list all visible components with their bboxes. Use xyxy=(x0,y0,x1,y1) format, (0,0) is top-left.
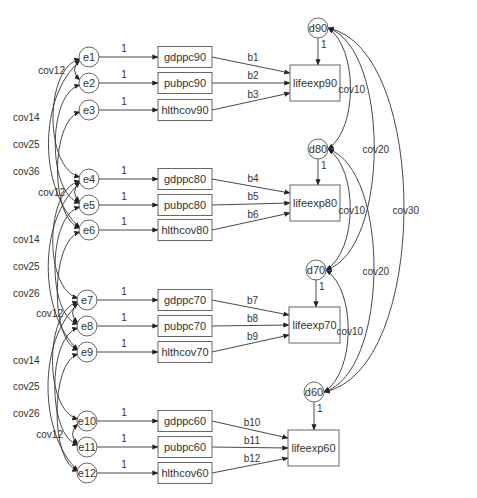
predictor-label: pubpc70 xyxy=(164,320,206,332)
regression-path-label: b9 xyxy=(247,331,259,342)
covariance-arc-label: cov26 xyxy=(13,288,40,299)
covariance-arc-label: cov25 xyxy=(13,261,40,272)
path-diagram: lifeexp90d901e11gdppc90b1e21pubpc90b2e31… xyxy=(0,0,477,498)
disturbance-covariance-label: cov20 xyxy=(363,266,390,277)
covariance-arc-label: cov26 xyxy=(13,408,40,419)
disturbance-path-label: 1 xyxy=(317,403,323,414)
regression-path-label: b10 xyxy=(244,417,261,428)
error-label: e6 xyxy=(83,224,95,236)
predictor-label: gdppc60 xyxy=(164,415,206,427)
covariance-cov12-label: cov12 xyxy=(38,187,65,198)
regression-path-label: b12 xyxy=(244,453,261,464)
regression-path-label: b6 xyxy=(247,209,259,220)
labels-layer: lifeexp90d901e11gdppc90b1e21pubpc90b2e31… xyxy=(13,22,420,479)
predictor-label: hlthcov90 xyxy=(161,104,208,116)
disturbance-path-label: 1 xyxy=(321,160,327,171)
error-label: e7 xyxy=(81,294,93,306)
error-path-label: 1 xyxy=(121,96,127,107)
predictor-label: hlthcov60 xyxy=(161,467,208,479)
error-path-label: 1 xyxy=(121,216,127,227)
error-label: e11 xyxy=(78,441,96,453)
disturbance-covariance-label: cov20 xyxy=(363,144,390,155)
outcome-label: lifeexp60 xyxy=(291,442,335,454)
edges-layer xyxy=(48,28,404,473)
disturbance-label: d90 xyxy=(309,22,327,34)
regression-path-label: b3 xyxy=(247,89,259,100)
predictor-label: hlthcov70 xyxy=(161,346,208,358)
error-path-label: 1 xyxy=(121,286,127,297)
covariance-cov12 xyxy=(73,424,79,444)
error-label: e9 xyxy=(81,346,93,358)
error-path-label: 1 xyxy=(121,312,127,323)
error-path-label: 1 xyxy=(121,459,127,470)
error-label: e5 xyxy=(83,199,95,211)
error-label: e10 xyxy=(78,415,96,427)
disturbance-covariance-label: cov10 xyxy=(337,326,364,337)
error-label: e2 xyxy=(83,77,95,89)
disturbance-label: d80 xyxy=(309,143,327,155)
disturbance-label: d60 xyxy=(305,386,323,398)
regression-path-label: b8 xyxy=(247,313,259,324)
error-path-label: 1 xyxy=(121,338,127,349)
disturbance-path-label: 1 xyxy=(321,39,327,50)
covariance-arc-label: cov25 xyxy=(13,381,40,392)
predictor-label: pubpc60 xyxy=(164,441,206,453)
error-path-label: 1 xyxy=(121,43,127,54)
predictor-label: gdppc70 xyxy=(164,294,206,306)
predictor-label: hlthcov80 xyxy=(161,224,208,236)
disturbance-covariance-label: cov30 xyxy=(393,205,420,216)
predictor-label: pubpc80 xyxy=(164,199,206,211)
error-path-label: 1 xyxy=(121,191,127,202)
covariance-arc-label: cov14 xyxy=(13,234,40,245)
outcome-label: lifeexp90 xyxy=(293,77,337,89)
regression-path xyxy=(212,325,289,326)
predictor-label: gdppc90 xyxy=(164,51,206,63)
covariance-arc xyxy=(57,232,80,350)
covariance-arc-label: cov36 xyxy=(13,166,40,177)
regression-path-label: b1 xyxy=(247,52,259,63)
error-label: e1 xyxy=(83,51,95,63)
covariance-arc-label: cov14 xyxy=(13,355,40,366)
outcome-label: lifeexp70 xyxy=(292,319,336,331)
error-label: e8 xyxy=(81,320,93,332)
outcome-label: lifeexp80 xyxy=(293,197,337,209)
disturbance-covariance-label: cov10 xyxy=(339,205,366,216)
covariance-arc xyxy=(48,304,78,471)
error-path-label: 1 xyxy=(121,69,127,80)
error-path-label: 1 xyxy=(121,407,127,418)
covariance-arc-label: cov14 xyxy=(13,112,40,123)
disturbance-path-label: 1 xyxy=(319,281,325,292)
disturbance-covariance-label: cov10 xyxy=(339,84,366,95)
covariance-arc-label: cov25 xyxy=(13,139,40,150)
regression-path xyxy=(212,203,290,205)
error-label: e3 xyxy=(83,104,95,116)
regression-path xyxy=(212,447,288,448)
error-path-label: 1 xyxy=(121,165,127,176)
regression-path-label: b7 xyxy=(247,295,259,306)
predictor-label: pubpc90 xyxy=(164,77,206,89)
regression-path-label: b4 xyxy=(247,173,259,184)
regression-path-label: b5 xyxy=(247,191,259,202)
covariance-cov12-label: cov12 xyxy=(36,429,63,440)
disturbance-label: d70 xyxy=(307,264,325,276)
error-path-label: 1 xyxy=(121,433,127,444)
covariance-cov12-label: cov12 xyxy=(38,65,65,76)
predictor-label: gdppc80 xyxy=(164,173,206,185)
covariance-cov12-label: cov12 xyxy=(36,308,63,319)
regression-path-label: b2 xyxy=(247,70,259,81)
covariance-arc xyxy=(55,85,80,203)
error-label: e4 xyxy=(83,173,95,185)
regression-path-label: b11 xyxy=(244,435,260,446)
error-label: e12 xyxy=(78,467,96,479)
